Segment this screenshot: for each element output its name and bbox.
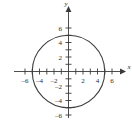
y-axis-label: y — [63, 0, 68, 8]
plot-svg: –6 –4 –2 2 4 6 6 4 2 –2 –4 –6 x y — [0, 0, 132, 131]
coordinate-plane-figure: –6 –4 –2 2 4 6 6 4 2 –2 –4 –6 x y — [0, 0, 132, 131]
x-tick-label: –4 — [35, 77, 44, 85]
y-tick-label: 2 — [59, 54, 63, 62]
y-tick-label: –2 — [54, 83, 63, 91]
x-axis-arrow-icon — [120, 69, 126, 75]
x-tick-label: 6 — [110, 77, 114, 85]
x-tick-label: 2 — [81, 77, 85, 85]
x-tick-label: 4 — [96, 77, 100, 85]
y-tick-label: 6 — [59, 25, 63, 33]
y-tick-label: 4 — [59, 39, 63, 47]
y-tick-label: –6 — [54, 112, 63, 120]
x-tick-label: –6 — [21, 77, 30, 85]
x-axis-label: x — [126, 63, 131, 71]
y-tick-label: –4 — [54, 97, 63, 105]
